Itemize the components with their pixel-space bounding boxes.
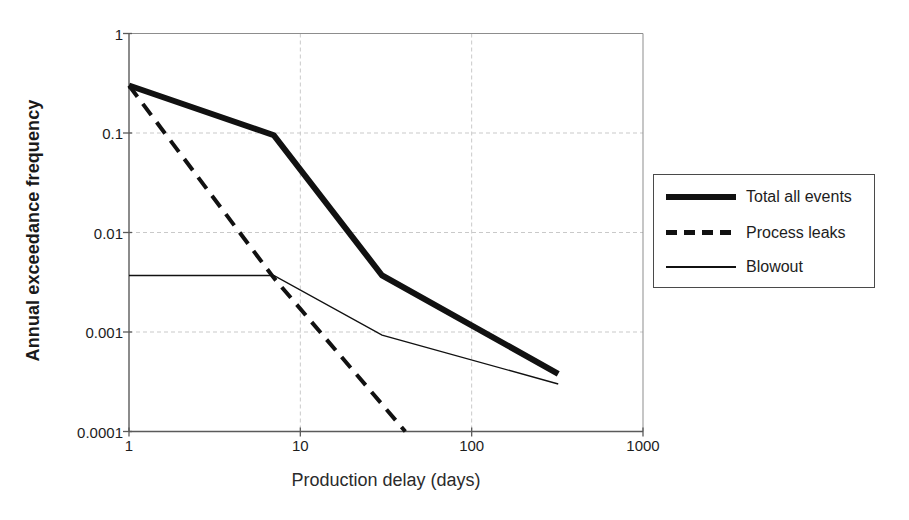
legend-label-blowout: Blowout [746, 258, 803, 276]
x-axis-title: Production delay (days) [129, 470, 643, 491]
legend-swatch-thin-line [664, 260, 738, 274]
legend-swatch-dashed-line [664, 226, 738, 240]
y-tick-label: 0.01 [94, 224, 123, 241]
legend-item-total-all-events: Total all events [664, 183, 866, 211]
data-series-group [129, 86, 558, 432]
y-tick-label: 1 [115, 25, 123, 42]
chart-figure: Annual exceedance frequency Production d… [0, 0, 909, 520]
x-tick-label: 100 [459, 437, 484, 454]
series-line-total-all-events [129, 86, 558, 374]
legend-swatch-thick-line [664, 190, 738, 204]
y-tick-label: 0.1 [102, 125, 123, 142]
x-tick-label: 10 [292, 437, 309, 454]
y-tick-label: 0.001 [85, 324, 123, 341]
series-line-process-leaks [129, 86, 405, 432]
x-tick-label: 1 [125, 437, 133, 454]
x-tick-label: 1000 [626, 437, 659, 454]
y-axis-tick-labels: 10.10.010.0010.0001 [40, 0, 123, 520]
gridlines-group [129, 34, 643, 432]
legend-item-blowout: Blowout [664, 253, 866, 281]
legend: Total all events Process leaks Blowout [653, 174, 875, 288]
legend-item-process-leaks: Process leaks [664, 219, 866, 247]
legend-label-total-all-events: Total all events [746, 188, 852, 206]
legend-label-process-leaks: Process leaks [746, 224, 846, 242]
series-line-blowout [129, 275, 558, 384]
y-tick-label: 0.0001 [77, 423, 123, 440]
tick-marks-group [123, 34, 643, 437]
